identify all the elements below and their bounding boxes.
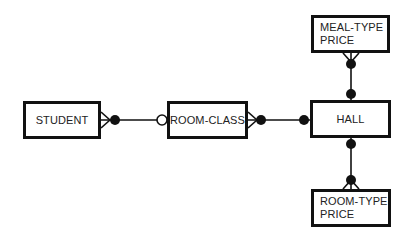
mandatory-dot-icon <box>346 89 356 99</box>
entity-label: MEAL-TYPE PRICE <box>320 21 383 47</box>
entity-student: STUDENT <box>23 101 101 139</box>
entity-meal-type-price: MEAL-TYPE PRICE <box>311 15 390 53</box>
entity-label: ROOM-TYPE PRICE <box>320 195 388 221</box>
mandatory-dot-icon <box>299 115 309 125</box>
optional-circle-icon <box>157 115 167 125</box>
entity-hall: HALL <box>310 100 391 138</box>
mandatory-dot-icon <box>256 115 266 125</box>
mandatory-dot-icon <box>110 115 120 125</box>
mandatory-dot-icon <box>346 175 356 185</box>
entity-room-class: ROOM-CLASS <box>167 101 248 139</box>
entity-label: STUDENT <box>36 114 89 126</box>
entity-label: HALL <box>337 113 365 125</box>
mandatory-dot-icon <box>346 59 356 69</box>
entity-room-type-price: ROOM-TYPE PRICE <box>311 189 391 227</box>
entity-label: ROOM-CLASS <box>170 114 245 126</box>
mandatory-dot-icon <box>346 139 356 149</box>
